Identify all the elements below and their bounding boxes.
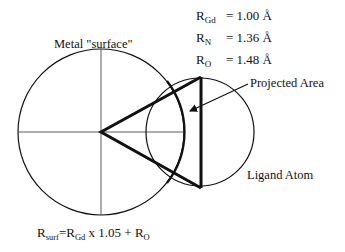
projected-area-label: Projected Area [250,76,324,90]
diagram-canvas [0,0,345,252]
radii-legend: RGd= 1.00 Å RN= 1.36 Å RO= 1.48 Å [196,7,272,73]
radius-n: RN= 1.36 Å [196,29,272,51]
ligand-atom-label: Ligand Atom [247,168,313,182]
surface-radius-formula: Rsurf=RGd x 1.05 + RO [37,226,150,240]
radius-gd: RGd= 1.00 Å [196,7,272,29]
projected-area-arrow [190,84,248,111]
projection-triangle [101,77,201,188]
radius-o: RO= 1.48 Å [196,51,272,73]
metal-surface-label: Metal "surface" [54,37,133,51]
